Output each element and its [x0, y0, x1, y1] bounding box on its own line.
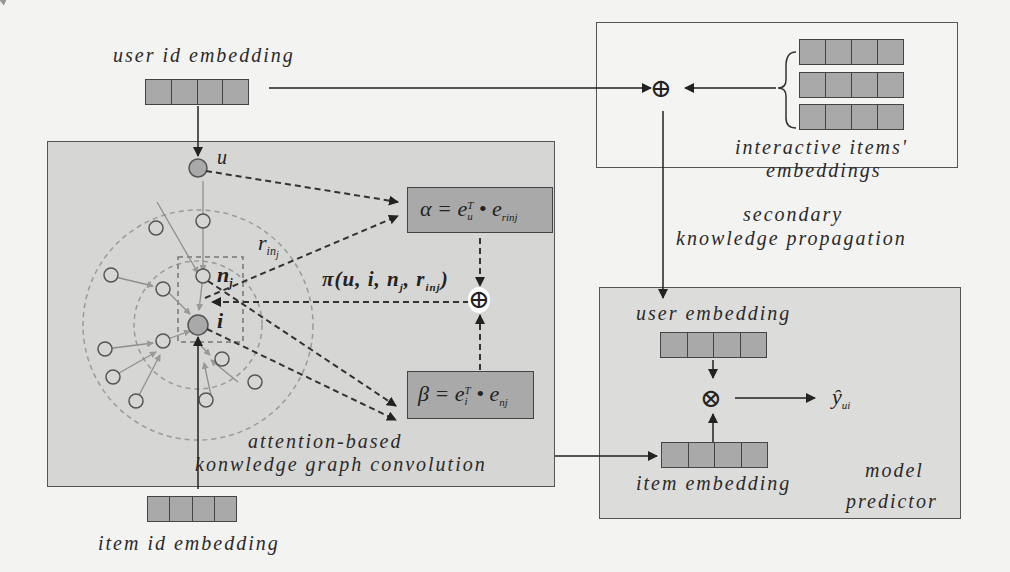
relation-label: rinj — [258, 230, 279, 261]
pi-rest: , r — [404, 267, 426, 291]
user-id-embedding-label: user id embedding — [113, 44, 295, 67]
prediction-subscript: ui — [842, 399, 851, 411]
interactive-item-embedding-2 — [799, 72, 904, 98]
focus-box — [178, 257, 243, 342]
user-node — [189, 159, 207, 177]
kgc-title-line2: konwledge graph convolution — [195, 453, 487, 476]
alpha-sub2-in: in — [506, 211, 515, 223]
beta-formula-box: β = eTi • enj — [407, 371, 534, 419]
attention-sum-operator: ⊕ — [468, 287, 490, 313]
secondary-title-line2: knowledge propagation — [676, 227, 907, 250]
product-operator: ⊗ — [700, 383, 722, 414]
beta-dot: • e — [471, 381, 499, 406]
user-id-embedding-vector — [145, 79, 249, 105]
item-embedding-label: item embedding — [636, 472, 791, 495]
pi-attention-label: π(u, i, nj, rinj) — [322, 267, 449, 293]
interactive-items-label-line2: embeddings — [766, 159, 882, 182]
neighbor-subscript: j — [229, 276, 232, 290]
neighbor-node-label: nj — [217, 262, 233, 291]
user-embedding-vector — [660, 332, 767, 358]
interactive-item-embedding-3 — [799, 104, 904, 130]
relation-subscript: inj — [267, 244, 279, 258]
item-node — [188, 315, 208, 335]
pi-head: π(u, i, n — [322, 267, 400, 291]
item-id-embedding-vector — [147, 496, 237, 522]
beta-sub2: nj — [499, 396, 508, 408]
interactive-items-label-line1: interactive items' — [735, 136, 908, 159]
prediction-symbol: ŷ — [832, 384, 842, 409]
pi-sub2: inj — [425, 281, 440, 293]
predictor-title-line2: predictor — [846, 490, 938, 513]
alpha-sub2-j: j — [515, 211, 518, 223]
alpha-lhs: α = e — [420, 196, 467, 221]
alpha-sub2: rinj — [502, 211, 518, 223]
interactive-item-embedding-1 — [799, 39, 904, 65]
beta-formula: β = eTi • enj — [418, 381, 508, 408]
beta-lhs: β = e — [418, 381, 465, 406]
relation-symbol: r — [258, 230, 267, 255]
secondary-title-line1: secondary — [743, 203, 843, 226]
item-embedding-vector — [661, 442, 768, 468]
predictor-title-line1: model — [865, 459, 924, 482]
brace — [778, 52, 796, 128]
secondary-sum-operator: ⊕ — [650, 73, 672, 104]
alpha-formula-box: α = eTu • erinj — [407, 187, 553, 233]
relation-sub-a: in — [267, 244, 276, 258]
kgc-title-line1: attention-based — [248, 430, 402, 453]
pi-close: ) — [441, 267, 449, 291]
item-id-embedding-label: item id embedding — [98, 532, 280, 555]
neighbor-symbol: n — [217, 262, 229, 287]
item-node-label: i — [217, 308, 223, 334]
alpha-dot: • e — [473, 196, 501, 221]
prediction-output: ŷui — [832, 384, 850, 411]
user-node-label: u — [217, 146, 227, 169]
relation-sub-b: j — [276, 250, 279, 261]
user-embedding-label: user embedding — [636, 302, 791, 325]
alpha-formula: α = eTu • erinj — [420, 196, 518, 223]
